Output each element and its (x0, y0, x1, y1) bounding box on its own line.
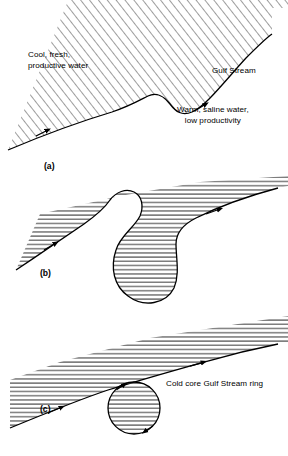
cool-fresh-water-line-1: Cool, fresh, (28, 50, 88, 61)
cold-core-ring-label-line-1: Cold core Gulf Stream ring (166, 379, 263, 390)
warm-saline-water-line-2: low productivity (177, 116, 249, 127)
gulf-stream-ring-diagram: Cool, fresh, productive water Gulf Strea… (0, 0, 288, 456)
panel-tag-b: (b) (40, 268, 51, 278)
panel-c-group (0, 310, 288, 440)
warm-saline-water-label: Warm, saline water, low productivity (177, 105, 249, 126)
gulf-stream-label-line-1: Gulf Stream (212, 66, 256, 77)
cold-core-ring-hatch (106, 380, 164, 438)
panel-b-group (0, 170, 288, 320)
panel-tag-c: (c) (40, 404, 51, 414)
warm-saline-water-line-1: Warm, saline water, (177, 105, 249, 116)
panel-b-cool-water-hatch (0, 170, 288, 320)
cold-core-ring (106, 380, 164, 438)
panel-tag-a: (a) (44, 161, 55, 171)
cool-fresh-water-label: Cool, fresh, productive water (28, 50, 88, 71)
cold-core-ring-label: Cold core Gulf Stream ring (166, 379, 263, 390)
gulf-stream-label: Gulf Stream (212, 66, 256, 77)
cool-fresh-water-line-2: productive water (28, 61, 88, 72)
